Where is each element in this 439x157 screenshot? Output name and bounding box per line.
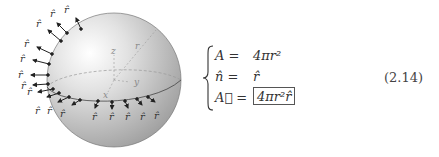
equation-number: (2.14) — [384, 70, 423, 85]
r-hat-label: r̂ — [64, 4, 70, 15]
axis-label-y: y — [133, 77, 140, 87]
equation-row-2-rhs: r̂ — [253, 70, 259, 83]
r-hat-label: r̂ — [50, 8, 56, 19]
r-hat-label: r̂ — [35, 105, 41, 116]
r-hat-label: r̂ — [47, 105, 53, 116]
r-hat-label: r̂ — [24, 38, 30, 49]
equation-row-3-rhs-boxed: 4πr²r̂ — [253, 87, 295, 105]
equation-row-1-rhs: 4πr² — [253, 49, 281, 62]
axis-label-x: x — [103, 90, 108, 100]
left-brace — [202, 45, 214, 111]
r-hat-label: r̂ — [27, 86, 33, 97]
equation-row-3-lhs: A⃗ = — [215, 91, 247, 104]
sphere-figure: z r y x r̂ r̂ r̂ r̂ r̂ r̂ r̂ r̂ r̂ r̂ r — [0, 0, 200, 157]
r-hat-label: r̂ — [36, 18, 42, 29]
equation-row-2-lhs: n̂ = — [215, 70, 238, 83]
axis-label-r: r — [135, 41, 140, 51]
r-hat-label: r̂ — [18, 69, 24, 80]
r-hat-label: r̂ — [20, 53, 26, 64]
equation-row-1-lhs: A = — [215, 49, 239, 62]
axis-label-z: z — [110, 46, 116, 56]
